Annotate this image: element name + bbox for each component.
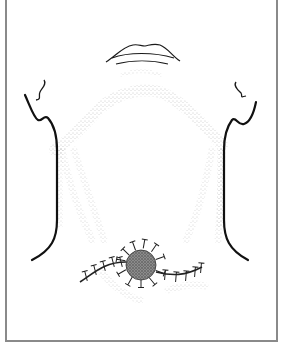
tumor-mass xyxy=(126,250,156,280)
stitch xyxy=(140,239,147,249)
left-ear-lobe xyxy=(36,80,45,100)
stipple-band xyxy=(55,91,222,150)
right-neck-contour xyxy=(224,102,256,260)
stipple-band xyxy=(186,150,212,240)
stitch xyxy=(173,272,180,282)
left-neck-contour xyxy=(25,95,57,260)
stitch xyxy=(130,241,139,252)
lip-midline xyxy=(112,54,174,59)
stipple-band xyxy=(168,285,205,290)
stitch xyxy=(155,254,166,263)
lower-lip-outline xyxy=(116,61,168,64)
neck-surgery-drawing xyxy=(0,0,281,348)
right-ear-lobe xyxy=(235,82,246,97)
stitch xyxy=(117,267,128,277)
medical-illustration xyxy=(0,0,281,348)
stipple-band xyxy=(122,71,160,75)
stitch xyxy=(149,243,159,254)
